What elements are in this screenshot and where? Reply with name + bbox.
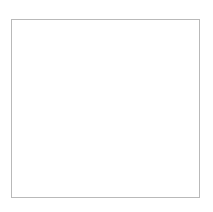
clip-top xyxy=(0,0,212,20)
packing-diagram xyxy=(0,0,212,212)
clip-left xyxy=(0,0,12,212)
figure-panel: d xyxy=(0,0,212,212)
clip-right xyxy=(200,0,213,212)
clip-bottom xyxy=(0,198,212,212)
simulation-box-frame-outline xyxy=(12,20,200,198)
